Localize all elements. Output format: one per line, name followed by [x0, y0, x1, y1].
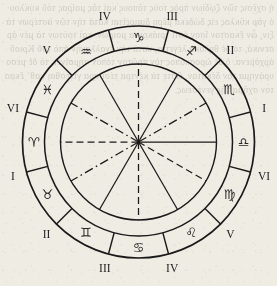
center-spokes [61, 64, 217, 220]
house-numeral-taurus: II [43, 228, 51, 240]
sector-divider-3 [108, 233, 114, 254]
house-numeral-pisces: VI [7, 102, 19, 114]
spoke-dashed-1 [139, 142, 207, 181]
house-numeral-cancer: IV [166, 262, 179, 274]
house-numeral-leo: V [226, 228, 235, 240]
house-numeral-virgo: VI [258, 170, 270, 182]
spoke-solid-4 [100, 142, 139, 210]
sector-divider-4 [56, 208, 72, 224]
spoke-solid-10 [139, 74, 178, 142]
sector-divider-0 [229, 166, 250, 172]
house-numeral-aries: I [11, 170, 15, 182]
spoke-dashdot-11 [139, 103, 207, 142]
sector-divider-2 [163, 233, 169, 254]
zodiac-glyph-leo: ♌ [185, 225, 197, 240]
zodiac-wheel-figure: ♐♏♎♍♌♋♊♉♈♓♒♑ IIIIIIVIVIVIIIIIIVIVIV [0, 0, 277, 286]
zodiac-glyph-aquarius: ♒ [80, 44, 92, 59]
house-numeral-capricorn: IV [99, 10, 112, 22]
zodiac-glyph-scorpio: ♏ [224, 82, 236, 97]
spoke-dashdot-5 [71, 142, 139, 181]
house-numeral-scorpio: II [227, 44, 235, 56]
spoke-solid-8 [100, 74, 139, 142]
spoke-dashdot-7 [71, 103, 139, 142]
zodiac-glyph-virgo: ♍ [224, 187, 236, 202]
sector-divider-7 [56, 60, 72, 76]
sector-divider-10 [205, 60, 221, 76]
zodiac-glyph-aries: ♈ [28, 135, 40, 150]
zodiac-glyph-libra: ♎ [238, 135, 250, 150]
sector-divider-5 [26, 166, 47, 172]
sector-divider-8 [108, 30, 114, 51]
zodiac-glyph-gemini: ♊ [80, 225, 92, 240]
house-numeral-aquarius: V [42, 44, 51, 56]
sector-divider-11 [229, 112, 250, 118]
sector-divider-6 [26, 112, 47, 118]
zodiac-glyph-capricorn: ♑ [133, 30, 145, 45]
zodiac-glyph-pisces: ♓ [42, 82, 54, 97]
zodiac-glyph-sagittarius: ♐ [185, 44, 197, 59]
house-numeral-gemini: III [99, 262, 111, 274]
house-numeral-sagittarius: III [166, 10, 178, 22]
house-numeral-libra: I [262, 102, 266, 114]
sector-divider-9 [163, 30, 169, 51]
sector-divider-1 [205, 208, 221, 224]
spoke-solid-2 [139, 142, 178, 210]
zodiac-glyph-cancer: ♋ [133, 240, 145, 255]
zodiac-glyph-taurus: ♉ [42, 187, 54, 202]
